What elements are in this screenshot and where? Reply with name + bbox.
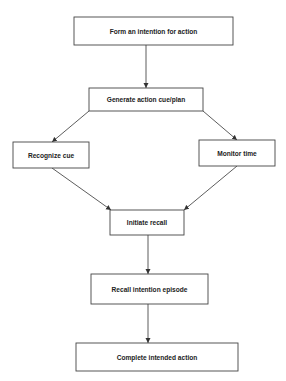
node-form-intention: Form an intention for action bbox=[74, 17, 233, 45]
node-label: Generate action cue/plan bbox=[107, 96, 185, 104]
arrow-generate-cue-to-monitor-time bbox=[203, 111, 237, 140]
node-label: Complete intended action bbox=[117, 354, 198, 362]
arrow-recognize-cue-to-initiate-recall bbox=[52, 168, 111, 210]
arrow-generate-cue-to-recognize-cue bbox=[52, 111, 89, 142]
flowchart: Form an intention for actionGenerate act… bbox=[0, 0, 286, 381]
node-initiate-recall: Initiate recall bbox=[110, 210, 184, 235]
nodes: Form an intention for actionGenerate act… bbox=[13, 17, 275, 371]
node-complete-action: Complete intended action bbox=[76, 343, 238, 371]
node-monitor-time: Monitor time bbox=[199, 140, 275, 166]
node-label: Form an intention for action bbox=[110, 28, 198, 35]
node-recall-episode: Recall intention episode bbox=[91, 274, 208, 304]
node-label: Initiate recall bbox=[127, 219, 167, 226]
arrow-monitor-time-to-initiate-recall bbox=[184, 166, 237, 210]
node-label: Monitor time bbox=[217, 150, 257, 157]
node-label: Recognize cue bbox=[28, 152, 75, 160]
node-label: Recall intention episode bbox=[112, 286, 188, 294]
node-recognize-cue: Recognize cue bbox=[13, 142, 89, 168]
node-generate-cue: Generate action cue/plan bbox=[89, 88, 203, 111]
